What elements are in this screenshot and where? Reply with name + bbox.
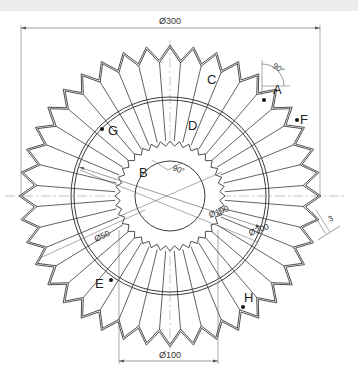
- point-h-label: H: [244, 290, 253, 305]
- arrowhead: [213, 360, 218, 363]
- spoke-line: [206, 238, 257, 298]
- spoke-line: [199, 243, 240, 310]
- spoke-line: [212, 109, 272, 160]
- point-c-label: C: [207, 72, 216, 87]
- point-a-label: A: [273, 82, 282, 97]
- spoke-line: [56, 225, 123, 266]
- spoke-line: [174, 63, 180, 141]
- point-f-label: F: [300, 112, 308, 127]
- point-g-label: G: [108, 123, 118, 138]
- point-a-dot: [262, 98, 266, 102]
- arrowhead: [21, 27, 26, 30]
- spoke-line: [68, 109, 128, 160]
- spoke-line: [160, 251, 166, 329]
- point-d-label: D: [188, 118, 197, 133]
- inner-gear: [115, 141, 225, 251]
- technical-drawing: Ø300 Ø100 Ø190 Ø200 Ø50 90° 90° 3 ABCDEF…: [0, 0, 358, 382]
- spoke-line: [199, 82, 240, 149]
- spoke-line: [100, 82, 141, 149]
- point-e-dot: [109, 278, 113, 282]
- arrowhead: [315, 27, 320, 30]
- dim-50-label: Ø50: [93, 228, 112, 244]
- spoke-line: [174, 251, 180, 329]
- spoke-line: [217, 126, 284, 167]
- thickness-ext-1: [312, 212, 326, 234]
- spoke-line: [225, 200, 303, 206]
- spoke-line: [212, 232, 272, 283]
- thickness-ext-2: [316, 210, 330, 232]
- point-h-dot: [241, 305, 245, 309]
- spoke-line: [225, 186, 303, 192]
- spoke-line: [37, 200, 115, 206]
- thickness-dim-line: [318, 226, 340, 240]
- point-f-dot: [295, 118, 299, 122]
- gear-outline: [115, 141, 225, 251]
- arrowhead: [79, 167, 84, 170]
- dim-100-label: Ø100: [159, 350, 181, 360]
- spoke-line: [100, 243, 141, 310]
- dim-300-label: Ø300: [159, 16, 181, 26]
- angle-outer-label: 90°: [271, 61, 286, 75]
- spoke-line: [206, 94, 257, 154]
- point-b-label: B: [139, 165, 148, 180]
- point-g-dot: [100, 127, 104, 131]
- point-e-label: E: [95, 276, 104, 291]
- spoke-line: [37, 186, 115, 192]
- spoke-line: [83, 238, 134, 298]
- spoke-line: [160, 63, 166, 141]
- arrowhead: [119, 360, 124, 363]
- thickness-label: 3: [327, 213, 336, 223]
